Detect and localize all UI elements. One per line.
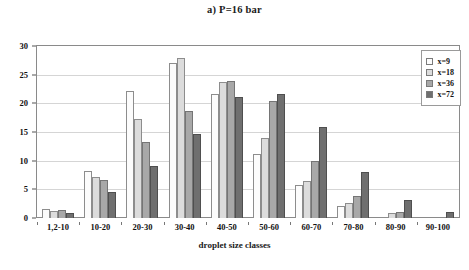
x-tick-mark [417,222,418,225]
bar [303,181,311,218]
bar [193,134,201,218]
bar [66,213,74,218]
bar [235,97,243,218]
x-tick-mark [290,222,291,225]
x-tick-mark [164,222,165,225]
x-tick-label: 1,2-10 [47,222,69,232]
x-tick-mark [37,222,38,225]
bar [295,185,303,218]
x-tick-label: 20-30 [133,222,153,232]
x-tick-label: 60-70 [301,222,321,232]
bar [134,119,142,218]
legend-label: x=72 [437,90,454,99]
legend-swatch [426,91,433,98]
figure: a) P=16 bar %FT 051015202530 1,2-1010-20… [0,0,469,270]
x-tick-label: 70-80 [344,222,364,232]
y-tick-label: 10 [20,156,29,166]
y-tick-label: 20 [20,98,29,108]
bar [253,154,261,218]
legend-label: x=18 [437,68,454,77]
bar [219,82,227,218]
legend-label: x=36 [437,79,454,88]
x-tick-mark [79,222,80,225]
bar [404,200,412,218]
x-tick-label: 30-40 [175,222,195,232]
y-tick-label: 15 [20,127,29,137]
bar [92,177,100,218]
bar [108,192,116,218]
bar [337,206,345,218]
legend-swatch [426,58,433,65]
x-tick-label: 50-60 [259,222,279,232]
x-tick-mark [375,222,376,225]
bar [277,94,285,218]
bar [353,196,361,218]
bar [126,91,134,218]
y-axis-ticks: 051015202530 [0,45,36,218]
bar [227,81,235,218]
x-tick-mark [206,222,207,225]
x-axis-labels: 1,2-1010-2020-3030-4040-5050-6060-7070-8… [37,222,459,236]
bar [345,203,353,218]
bar [169,63,177,218]
bar [311,161,319,218]
bar-group [79,46,121,218]
x-tick-mark [332,222,333,225]
bar [58,210,66,218]
plot-area [37,46,459,218]
bar-group [164,46,206,218]
bar [211,94,219,218]
x-tick-label: 90-100 [426,222,450,232]
bar-group [121,46,163,218]
legend-swatch [426,69,433,76]
bar [380,217,388,218]
chart-title: a) P=16 bar [0,4,469,15]
legend-item: x=36 [426,79,454,88]
bar [261,138,269,218]
legend-item: x=9 [426,57,454,66]
bar [42,209,50,218]
x-tick-mark [248,222,249,225]
legend-item: x=18 [426,68,454,77]
bar [100,180,108,218]
legend-swatch [426,80,433,87]
bar [142,142,150,218]
bar-group [248,46,290,218]
bar [361,172,369,218]
x-axis-title: droplet size classes [0,240,469,250]
y-tick-label: 5 [24,184,28,194]
y-tick-label: 30 [20,41,29,51]
y-tick-label: 0 [24,213,28,223]
bar [319,127,327,218]
x-tick-mark [121,222,122,225]
bar-group [375,46,417,218]
bar [269,101,277,218]
bar [185,111,193,218]
bar [150,166,158,218]
y-tick-label: 25 [20,70,29,80]
bar [446,212,454,218]
bar [50,211,58,218]
bar [177,58,185,218]
bar-group [206,46,248,218]
bar-group [37,46,79,218]
x-tick-label: 40-50 [217,222,237,232]
legend-item: x=72 [426,90,454,99]
x-tick-label: 10-20 [90,222,110,232]
bar-group [332,46,374,218]
chart-legend: x=9x=18x=36x=72 [421,50,461,106]
x-tick-label: 80-90 [386,222,406,232]
bar [396,212,404,218]
legend-label: x=9 [437,57,450,66]
bar-group [290,46,332,218]
bar [84,171,92,218]
bar [388,213,396,218]
